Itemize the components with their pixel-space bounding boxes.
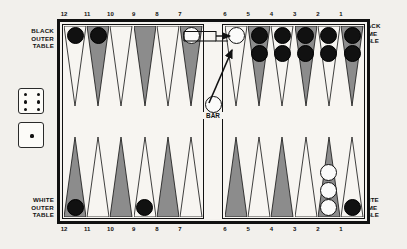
point-number-3: 3 [289, 224, 301, 234]
point-8[interactable] [157, 26, 181, 106]
point-8[interactable] [157, 137, 181, 217]
point-6[interactable] [225, 137, 249, 217]
label-white-outer-table: WHITE OUTER TABLE [8, 196, 54, 219]
checker-black-point-1[interactable] [344, 199, 361, 216]
point-number-4: 4 [265, 224, 277, 234]
point-number-8: 8 [151, 9, 163, 19]
checker-black-point-1[interactable] [344, 27, 361, 44]
pip [30, 134, 33, 137]
die-six[interactable] [18, 88, 44, 114]
checker-white-point-7[interactable] [183, 27, 200, 44]
point-number-12: 12 [58, 224, 70, 234]
checker-white-point-6[interactable] [228, 27, 245, 44]
point-10[interactable] [110, 26, 134, 106]
checker-black-point-3[interactable] [297, 27, 314, 44]
point-number-8: 8 [151, 224, 163, 234]
point-number-6: 6 [219, 9, 231, 19]
point-number-1: 1 [335, 9, 347, 19]
checker-black-point-5[interactable] [251, 45, 268, 62]
bar-label: BAR [199, 112, 227, 119]
point-numbers-bottom: 121110987654321 [0, 224, 407, 234]
point-number-7: 7 [174, 224, 186, 234]
checker-black-point-3[interactable] [297, 45, 314, 62]
pip [24, 108, 27, 111]
bar[interactable] [203, 24, 223, 219]
point-numbers-top: 121110987654321 [0, 9, 407, 19]
point-number-6: 6 [219, 224, 231, 234]
label-black-outer-table: BLACK OUTER TABLE [8, 27, 54, 50]
point-number-10: 10 [104, 9, 116, 19]
point-number-11: 11 [81, 9, 93, 19]
checker-black-point-11[interactable] [90, 27, 107, 44]
point-10[interactable] [110, 137, 134, 217]
point-number-5: 5 [242, 9, 254, 19]
checker-black-point-1[interactable] [344, 45, 361, 62]
point-number-5: 5 [242, 224, 254, 234]
point-number-10: 10 [104, 224, 116, 234]
point-number-2: 2 [312, 9, 324, 19]
point-9[interactable] [134, 26, 158, 106]
pip [37, 100, 40, 103]
point-number-12: 12 [58, 9, 70, 19]
checker-black-point-4[interactable] [274, 27, 291, 44]
point-7[interactable] [180, 137, 204, 217]
point-number-1: 1 [335, 224, 347, 234]
pip [37, 108, 40, 111]
checker-black-point-9[interactable] [136, 199, 153, 216]
checker-white-on-bar[interactable] [205, 96, 222, 113]
checker-white-point-2[interactable] [320, 182, 337, 199]
point-number-9: 9 [128, 224, 140, 234]
checker-black-point-5[interactable] [251, 27, 268, 44]
pip [24, 93, 27, 96]
point-11[interactable] [87, 137, 111, 217]
checker-black-point-12[interactable] [67, 27, 84, 44]
checker-black-point-4[interactable] [274, 45, 291, 62]
point-number-2: 2 [312, 224, 324, 234]
point-3[interactable] [295, 137, 319, 217]
point-number-3: 3 [289, 9, 301, 19]
backgammon-board: BLACK OUTER TABLE WHITE OUTER TABLE BLAC… [0, 0, 407, 249]
point-number-9: 9 [128, 9, 140, 19]
point-number-4: 4 [265, 9, 277, 19]
checker-black-point-2[interactable] [320, 45, 337, 62]
point-number-7: 7 [174, 9, 186, 19]
point-5[interactable] [248, 137, 272, 217]
pip [37, 93, 40, 96]
checker-black-point-12[interactable] [67, 199, 84, 216]
pip [24, 100, 27, 103]
point-4[interactable] [271, 137, 295, 217]
point-number-11: 11 [81, 224, 93, 234]
die-one[interactable] [18, 122, 44, 148]
